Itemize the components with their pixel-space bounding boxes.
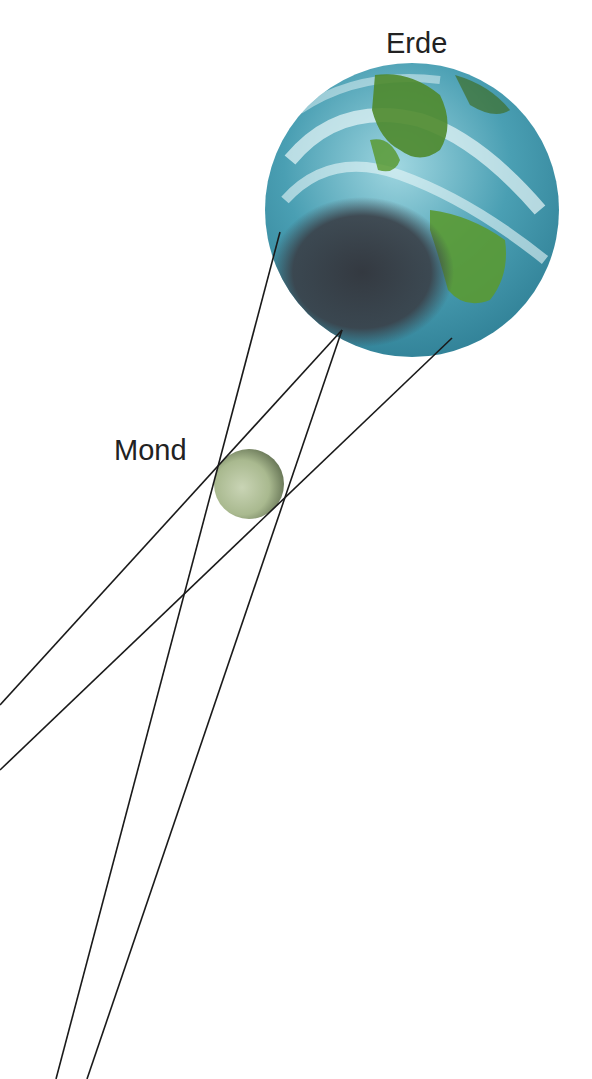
- line-2: [0, 330, 342, 705]
- moon-label: Mond: [114, 434, 187, 467]
- earth-label: Erde: [386, 27, 447, 60]
- moon-shadow: [270, 197, 454, 347]
- earth: [265, 63, 559, 357]
- line-1: [56, 232, 280, 1079]
- eclipse-diagram: [0, 0, 592, 1079]
- line-4: [0, 338, 452, 770]
- sight-lines: [0, 232, 452, 1079]
